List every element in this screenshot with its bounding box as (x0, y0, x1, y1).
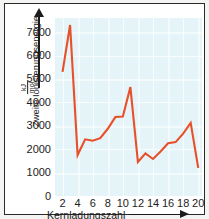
y-axis-tick-label: 2000 (7, 144, 51, 155)
ionization-energy-curve (55, 18, 202, 196)
y-axis-tick-label: 7000 (7, 27, 51, 38)
x-axis-title: Kernladungszahl (47, 209, 125, 219)
y-axis-tick-label: 0 (7, 191, 51, 202)
y-axis-tick-label: 3000 (7, 120, 51, 131)
y-axis-tick-label: 5000 (7, 73, 51, 84)
y-axis-tick-label: 4000 (7, 97, 51, 108)
y-axis-tick-label: 6000 (7, 50, 51, 61)
ionization-energy-figure: Zweite Ionisierungsenergie kJ mol 010002… (0, 0, 209, 219)
x-axis-arrow-icon (129, 214, 187, 215)
x-axis-tick-label: 20 (187, 198, 209, 209)
plot-area (55, 18, 202, 196)
figure-frame: Zweite Ionisierungsenergie kJ mol 010002… (4, 3, 205, 215)
y-axis-tick-labels: 01000200030004000500060007000 (5, 4, 51, 219)
y-axis-tick-label: 1000 (7, 167, 51, 178)
